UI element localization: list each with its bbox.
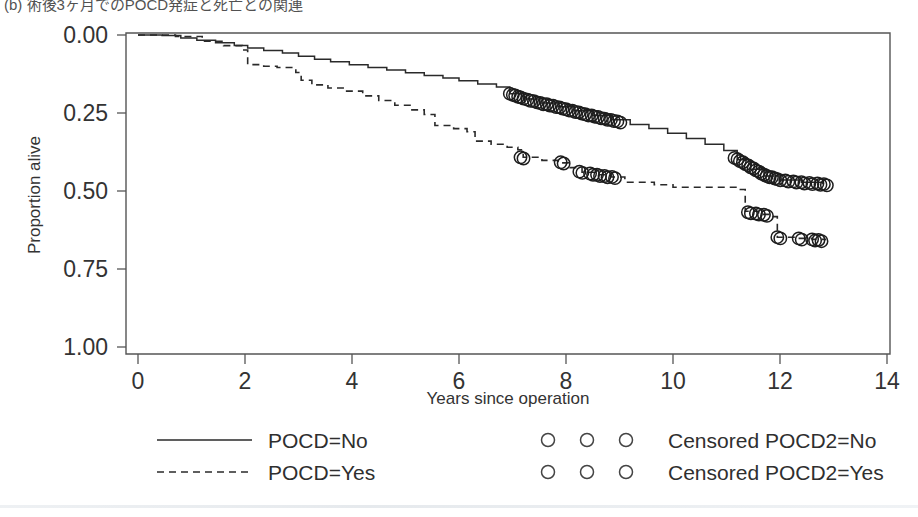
legend-circle-icon [581, 466, 594, 479]
y-axis-title: Proportion alive [25, 136, 44, 254]
y-tick-label: 1.00 [63, 334, 108, 360]
legend-right: Censored POCD2=No Censored POCD2=Yes [542, 429, 884, 484]
legend-left: POCD=No POCD=Yes [157, 429, 375, 484]
x-tick-label: 0 [132, 368, 145, 394]
y-tick-label: 0.25 [63, 100, 108, 126]
series-line-pocd-no [138, 35, 823, 184]
legend-circle-icon [581, 434, 594, 447]
survival-chart: 1.000.750.500.250.00 02468101214 Proport… [0, 0, 918, 500]
chart-svg: 1.000.750.500.250.00 02468101214 Proport… [0, 0, 918, 500]
legend-label-censored-no: Censored POCD2=No [668, 429, 876, 452]
legend-circle-icon [542, 466, 555, 479]
y-tick-label: 0.00 [63, 22, 108, 48]
legend-circle-icon [542, 434, 555, 447]
plot-frame [126, 33, 890, 354]
series-line-pocd-yes [138, 35, 825, 240]
x-tick-label: 12 [767, 368, 793, 394]
footer-divider [0, 505, 918, 508]
x-tick-label: 2 [239, 368, 252, 394]
y-axis-ticks: 1.000.750.500.250.00 [63, 22, 126, 360]
x-axis-title: Years since operation [427, 389, 590, 408]
x-tick-label: 14 [874, 368, 900, 394]
legend-label-pocd-yes: POCD=Yes [268, 461, 375, 484]
x-axis-ticks: 02468101214 [132, 354, 900, 394]
y-tick-label: 0.50 [63, 178, 108, 204]
y-tick-label: 0.75 [63, 256, 108, 282]
series-layer [138, 35, 833, 247]
x-tick-label: 10 [660, 368, 686, 394]
legend-label-pocd-no: POCD=No [268, 429, 368, 452]
legend-label-censored-yes: Censored POCD2=Yes [668, 461, 884, 484]
legend-circle-icon [620, 434, 633, 447]
x-tick-label: 4 [346, 368, 359, 394]
legend-circle-icon [620, 466, 633, 479]
